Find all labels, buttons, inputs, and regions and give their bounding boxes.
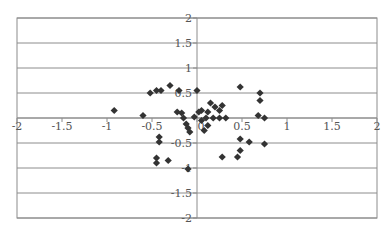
diamond-marker [111,107,118,114]
x-tick-label: 0.5 [233,120,251,133]
diamond-marker [216,114,223,121]
diamond-marker [156,138,163,145]
x-tick-label: -0.5 [141,120,162,133]
y-tick-label: -2 [181,212,192,225]
x-tick-label: 1.5 [323,120,341,133]
diamond-marker [204,108,211,115]
diamond-marker [256,97,263,104]
diamond-marker [153,159,160,166]
diamond-marker [166,82,173,89]
scatter-chart: -2-1.5-1-0.500.511.52 -2-1.5-1-0.50.511.… [0,0,391,233]
x-tick-label: 2 [374,120,381,133]
diamond-marker [237,83,244,90]
y-tick-label: 1 [185,62,192,75]
x-tick-label: -1 [102,120,113,133]
diamond-marker [246,138,253,145]
diamond-marker [222,114,229,121]
diamond-marker [210,114,217,121]
x-tick-label: -1.5 [51,120,72,133]
diamond-marker [147,89,154,96]
x-tick-label: -2 [12,120,23,133]
diamond-marker [237,135,244,142]
diamond-marker [237,147,244,154]
diamond-marker [261,140,268,147]
diamond-marker [219,153,226,160]
diamond-marker [165,157,172,164]
diamond-marker [234,153,241,160]
diamond-marker [261,114,268,121]
x-tick-labels: -2-1.5-1-0.500.511.52 [12,118,381,133]
diamond-marker [256,89,263,96]
y-tick-label: -0.5 [171,137,192,150]
y-tick-label: 1.5 [175,37,193,50]
y-tick-label: -1.5 [171,187,192,200]
y-tick-label: 2 [185,12,192,25]
x-tick-label: 1 [284,120,291,133]
